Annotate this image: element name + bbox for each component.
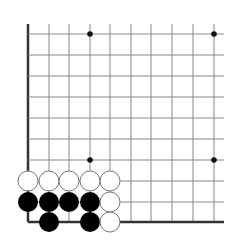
star-point-icon: [211, 157, 217, 163]
black-stone: [59, 192, 79, 212]
white-stone: [100, 192, 120, 212]
grid-lines: [28, 24, 224, 222]
white-stone: [80, 171, 100, 191]
white-stone: [100, 171, 120, 191]
black-stone: [18, 192, 38, 212]
black-stone: [39, 192, 59, 212]
white-stone: [39, 171, 59, 191]
black-stone: [80, 212, 100, 232]
star-point-icon: [211, 31, 217, 37]
white-stone: [59, 171, 79, 191]
star-point-icon: [87, 157, 93, 163]
star-point-icon: [87, 31, 93, 37]
black-stone: [39, 212, 59, 232]
black-stone: [80, 192, 100, 212]
white-stone: [18, 171, 38, 191]
white-stone: [100, 212, 120, 232]
go-board: [0, 0, 242, 252]
